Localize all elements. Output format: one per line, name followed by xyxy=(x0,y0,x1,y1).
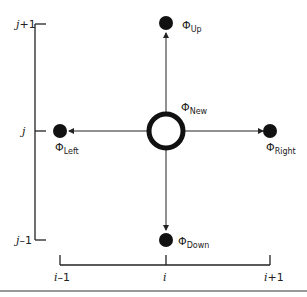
node-new xyxy=(149,114,183,148)
x-axis: i–1 i i+1 xyxy=(54,255,284,284)
label-up: ΦUp xyxy=(182,19,202,34)
label-right: ΦRight xyxy=(266,141,296,156)
stencil-diagram: j+1 j j–1 i–1 i i+1 ΦUp ΦNew ΦLeft ΦRigh… xyxy=(0,0,307,297)
node-right xyxy=(263,124,277,138)
y-tick-j-plus-1: j+1 xyxy=(13,18,36,31)
x-tick-i-plus-1: i+1 xyxy=(264,271,284,284)
node-down xyxy=(159,233,173,247)
label-down: ΦDown xyxy=(178,235,209,250)
y-tick-j-minus-1: j–1 xyxy=(13,234,32,247)
x-tick-i-minus-1: i–1 xyxy=(54,271,70,284)
node-left xyxy=(53,124,67,138)
y-tick-j: j xyxy=(19,125,26,138)
label-new: ΦNew xyxy=(181,101,208,116)
label-left: ΦLeft xyxy=(55,141,79,156)
y-axis: j+1 j j–1 xyxy=(13,18,46,247)
x-tick-i: i xyxy=(163,271,167,284)
node-up xyxy=(159,16,173,30)
